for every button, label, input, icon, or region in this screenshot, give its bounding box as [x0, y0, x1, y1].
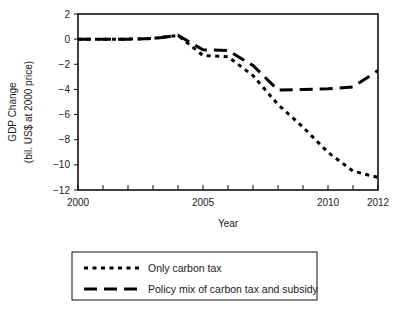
y-axis-title: GDP Change (bil. US$ at 2000 price): [7, 61, 34, 163]
y-axis-title-line1: GDP Change: [7, 82, 18, 142]
y-tick-label: −8: [59, 134, 71, 145]
chart-series-group: [78, 35, 378, 177]
x-axis-tick-labels: 2000200520102012: [67, 197, 390, 208]
x-tick-label: 2010: [317, 197, 340, 208]
x-tick-label: 2000: [67, 197, 90, 208]
chart-legend: Only carbon taxPolicy mix of carbon tax …: [72, 252, 319, 300]
x-tick-label: 2012: [367, 197, 390, 208]
y-tick-label: −12: [53, 185, 70, 196]
y-axis-title-line2: (bil. US$ at 2000 price): [23, 61, 34, 163]
series-line-1: [78, 35, 378, 177]
y-tick-label: 2: [64, 9, 70, 20]
gdp-change-line-chart: GDP Change (bil. US$ at 2000 price) 20−2…: [0, 0, 403, 312]
legend-label-1: Only carbon tax: [148, 262, 222, 274]
legend-label-2: Policy mix of carbon tax and subsidy: [148, 283, 319, 295]
y-tick-label: −2: [59, 59, 71, 70]
y-tick-label: 0: [64, 34, 70, 45]
x-tick-label: 2005: [192, 197, 215, 208]
y-tick-label: −10: [53, 159, 70, 170]
y-tick-label: −4: [59, 84, 71, 95]
y-axis-tick-labels: 20−2−4−6−8−10−12: [53, 9, 70, 196]
x-axis-title: Year: [218, 218, 239, 229]
series-line-2: [78, 35, 378, 90]
y-tick-label: −6: [59, 109, 71, 120]
chart-figure: GDP Change (bil. US$ at 2000 price) 20−2…: [0, 0, 403, 312]
